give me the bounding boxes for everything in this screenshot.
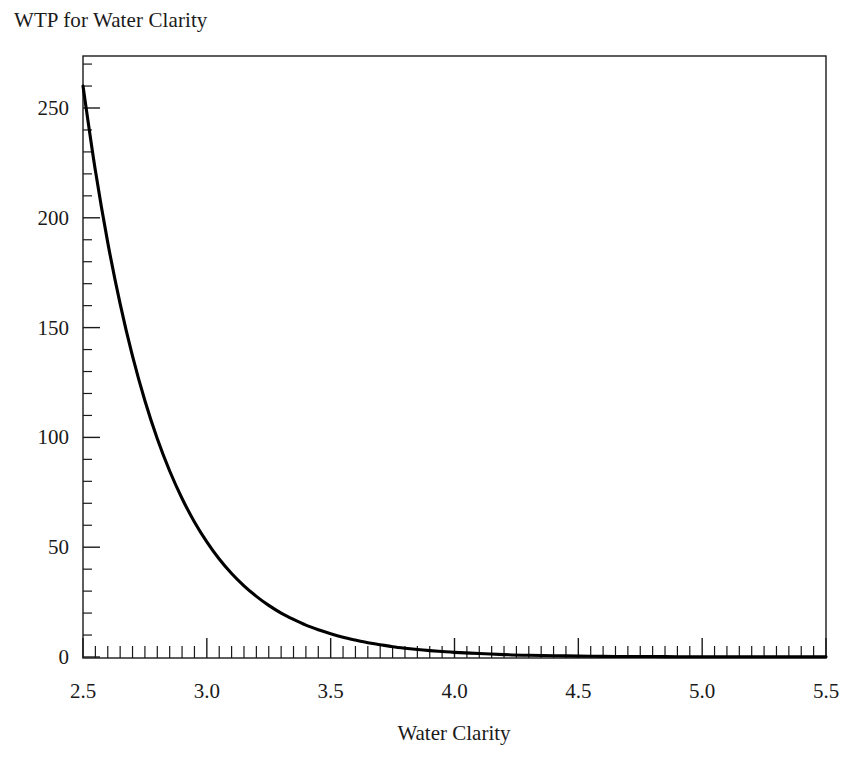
y-axis-tick-label: 150 bbox=[38, 316, 70, 340]
y-axis-tick-label: 100 bbox=[38, 425, 70, 449]
y-axis-tick-label: 200 bbox=[38, 206, 70, 230]
x-axis-tick-label: 3.5 bbox=[318, 679, 344, 703]
x-axis-title: Water Clarity bbox=[397, 721, 511, 745]
x-axis-tick-label: 4.5 bbox=[565, 679, 591, 703]
x-axis-tick-label: 3.0 bbox=[194, 679, 220, 703]
x-axis-tick-label: 2.5 bbox=[70, 679, 96, 703]
y-axis-tick-label: 250 bbox=[38, 96, 70, 120]
x-axis-tick-label: 5.5 bbox=[813, 679, 839, 703]
plot-frame bbox=[83, 56, 826, 658]
plot-area: 050100150200250 2.53.03.54.04.55.05.5 Wa… bbox=[0, 0, 854, 759]
x-axis-tick-label: 4.0 bbox=[441, 679, 467, 703]
y-axis-tick-label: 50 bbox=[48, 535, 69, 559]
y-axis-tick-label: 0 bbox=[59, 645, 70, 669]
y-axis-tick-labels: 050100150200250 bbox=[38, 96, 70, 669]
x-axis-tick-label: 5.0 bbox=[689, 679, 715, 703]
x-axis-tick-labels: 2.53.03.54.04.55.05.5 bbox=[70, 679, 839, 703]
chart-figure: WTP for Water Clarity 050100150200250 2.… bbox=[0, 0, 854, 759]
data-series-wtp bbox=[83, 86, 826, 657]
